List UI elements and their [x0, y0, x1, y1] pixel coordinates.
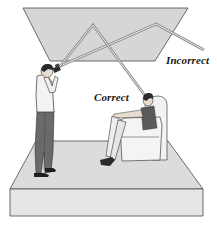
ceiling-plane: [23, 8, 188, 61]
seated-subject: [100, 93, 167, 166]
label-correct: Correct: [94, 91, 129, 103]
subject-shirt: [141, 106, 157, 130]
subject-arm: [113, 110, 143, 118]
label-incorrect: Incorrect: [166, 54, 209, 66]
floor-front: [10, 189, 203, 216]
bounce-light-diagram: [0, 0, 217, 226]
